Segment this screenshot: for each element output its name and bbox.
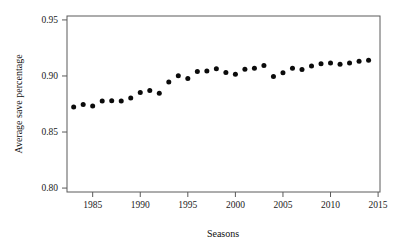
data-point: [185, 76, 190, 81]
data-point: [328, 60, 333, 65]
y-tick-label: 0.80: [41, 183, 58, 193]
data-point: [271, 74, 276, 79]
y-tick-label: 0.85: [41, 127, 58, 137]
data-point: [299, 67, 304, 72]
data-point: [261, 63, 266, 68]
scatter-plot-canvas: 0.800.850.900.95 19851990199520002005201…: [0, 0, 396, 249]
data-point: [157, 91, 162, 96]
data-point: [166, 80, 171, 85]
data-point: [195, 69, 200, 74]
data-point: [347, 60, 352, 65]
data-point: [366, 58, 371, 63]
data-point: [319, 61, 324, 66]
chart-figure: 0.800.850.900.95 19851990199520002005201…: [0, 0, 396, 249]
x-axis-ticks: 1985199019952000200520102015: [83, 192, 388, 210]
data-point: [242, 67, 247, 72]
data-point: [128, 96, 133, 101]
data-point: [338, 62, 343, 67]
data-point: [223, 70, 228, 75]
y-tick-label: 0.95: [41, 15, 58, 25]
y-axis-ticks: 0.800.850.900.95: [41, 15, 67, 193]
x-tick-label: 2010: [321, 200, 340, 210]
data-point: [204, 68, 209, 73]
data-point: [71, 105, 76, 110]
data-point: [81, 102, 86, 107]
data-point-series: [71, 58, 371, 110]
data-point: [100, 98, 105, 103]
data-point: [290, 66, 295, 71]
data-point: [214, 66, 219, 71]
x-tick-label: 1985: [83, 200, 102, 210]
x-tick-label: 1995: [178, 200, 197, 210]
y-tick-label: 0.90: [41, 71, 58, 81]
x-tick-label: 2005: [273, 200, 292, 210]
data-point: [176, 73, 181, 78]
data-point: [252, 66, 257, 71]
plot-frame: [67, 16, 380, 192]
x-tick-label: 2000: [226, 200, 245, 210]
x-tick-label: 1990: [131, 200, 150, 210]
data-point: [147, 88, 152, 93]
data-point: [233, 72, 238, 77]
data-point: [119, 99, 124, 104]
data-point: [90, 103, 95, 108]
data-point: [309, 63, 314, 68]
data-point: [280, 70, 285, 75]
x-axis-title: Seasons: [207, 228, 239, 239]
data-point: [109, 98, 114, 103]
data-point: [138, 90, 143, 95]
data-point: [357, 59, 362, 64]
y-axis-title: Average save percentage: [13, 54, 24, 154]
x-tick-label: 2015: [369, 200, 388, 210]
